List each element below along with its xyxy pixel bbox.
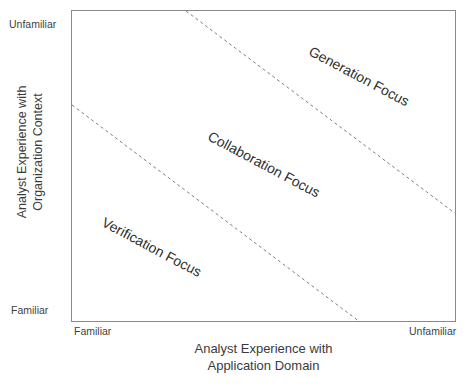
x-axis-tick-right: Unfamiliar [409,325,456,337]
y-axis-title-line2: Organization Context [30,42,46,262]
y-axis-tick-top: Unfamiliar [9,18,56,30]
y-axis-title: Analyst Experience with Organization Con… [14,42,46,262]
y-axis-tick-bottom: Familiar [11,304,48,316]
x-axis-title: Analyst Experience with Application Doma… [71,341,456,374]
x-axis-title-line2: Application Domain [71,358,456,375]
y-axis-title-line1: Analyst Experience with [15,86,29,219]
x-axis-tick-left: Familiar [74,325,111,337]
y-axis-title-wrapper: Analyst Experience with Organization Con… [14,42,54,262]
x-axis-title-line1: Analyst Experience with [194,341,332,356]
quadrant-diagram: Unfamiliar Familiar Familiar Unfamiliar … [0,0,469,386]
